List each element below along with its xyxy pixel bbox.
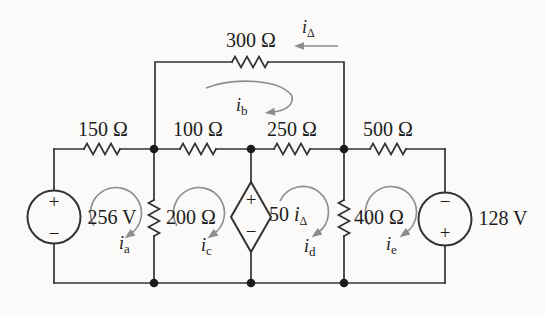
resistor-100ohm <box>180 144 216 155</box>
label-200ohm: 200 Ω <box>166 206 216 228</box>
minus-sign: − <box>440 191 451 212</box>
label-128v: 128 V <box>478 207 528 229</box>
label-current-idelta: iΔ <box>302 17 315 40</box>
resistor-200ohm <box>149 200 160 236</box>
voltage-source-256v: + − <box>28 191 81 245</box>
node-dot <box>247 145 256 154</box>
label-100ohm: 100 Ω <box>173 118 223 140</box>
plus-sign: + <box>246 189 257 210</box>
dependent-source: + − <box>231 182 271 252</box>
voltage-source-128v: − + <box>419 191 472 246</box>
label-current-id: id <box>304 236 316 259</box>
mesh-arrow-ib <box>206 81 292 112</box>
plus-sign: + <box>49 191 60 212</box>
label-400ohm: 400 Ω <box>354 206 404 228</box>
label-current-ie: ie <box>386 234 397 257</box>
node-dot <box>150 279 159 288</box>
label-256v: 256 V <box>87 206 137 228</box>
node-dot <box>340 279 349 288</box>
circuit-canvas: + − − + + − <box>0 0 545 316</box>
resistor-500ohm <box>370 144 406 155</box>
resistor-150ohm <box>84 144 120 155</box>
plus-sign: + <box>440 222 451 243</box>
current-arrowhead-idelta <box>294 42 304 50</box>
minus-sign: − <box>246 221 257 242</box>
label-current-ib: ib <box>236 95 248 118</box>
label-250ohm: 250 Ω <box>267 118 317 140</box>
node-dot <box>247 279 256 288</box>
node-dot <box>340 145 349 154</box>
resistor-300ohm <box>232 57 268 68</box>
resistor-400ohm <box>339 200 350 236</box>
mesh-arrowhead-ib <box>265 108 276 116</box>
circuit-diagram: + − − + + − <box>0 0 545 316</box>
node-dot <box>150 145 159 154</box>
component-labels: 300 Ω 150 Ω 100 Ω 250 Ω 500 Ω 256 V 200 … <box>78 29 528 229</box>
minus-sign: − <box>49 223 60 244</box>
label-dependent-source: 50iΔ <box>269 203 308 228</box>
label-current-ic: ic <box>201 235 212 258</box>
resistor-250ohm <box>274 144 310 155</box>
label-150ohm: 150 Ω <box>78 118 128 140</box>
label-300ohm: 300 Ω <box>226 29 276 51</box>
label-500ohm: 500 Ω <box>363 118 413 140</box>
